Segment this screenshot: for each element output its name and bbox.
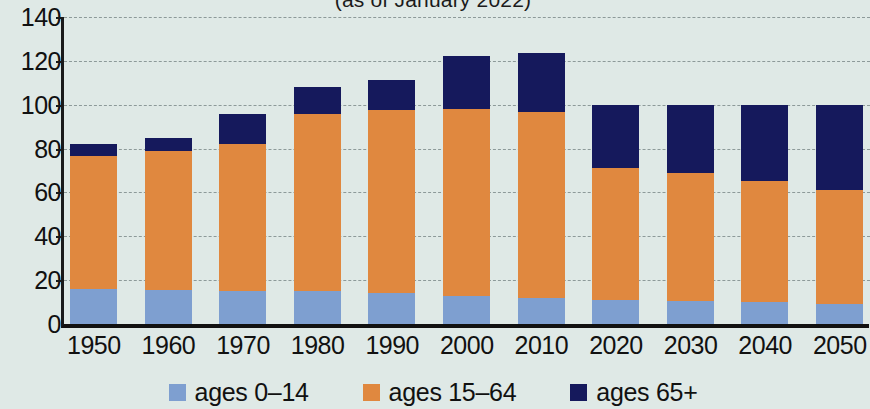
x-axis-tick-label: 2010 — [515, 331, 562, 361]
bar-segment[interactable] — [443, 56, 490, 109]
bar-segment[interactable] — [145, 151, 192, 290]
y-axis-tick-mark — [56, 17, 64, 19]
x-axis-tick-label: 1990 — [365, 331, 412, 361]
bar-segment[interactable] — [443, 109, 490, 295]
x-axis-tick-label: 2000 — [440, 331, 487, 361]
y-axis-tick-label: 80 — [3, 136, 61, 161]
y-axis-tick-mark — [56, 149, 64, 151]
chart-title: (as of January 2022) — [0, 0, 866, 12]
bar-column[interactable] — [368, 17, 415, 324]
bar-segment[interactable] — [70, 144, 117, 156]
bar-column[interactable] — [816, 17, 863, 324]
bar-segment[interactable] — [145, 138, 192, 151]
bar-segment[interactable] — [368, 110, 415, 293]
bar-segment[interactable] — [368, 293, 415, 324]
x-axis-tick-label: 2030 — [664, 331, 711, 361]
x-axis-tick-label: 2020 — [589, 331, 636, 361]
bar-segment[interactable] — [70, 289, 117, 324]
bar-segment[interactable] — [667, 173, 714, 301]
bar-group — [64, 17, 869, 324]
plot-area — [61, 17, 869, 328]
legend-color-swatch — [570, 384, 587, 401]
legend-item[interactable]: ages 0–14 — [169, 378, 309, 407]
y-axis-tick-mark — [56, 280, 64, 282]
y-axis-tick-label: 0 — [3, 312, 61, 337]
legend-label: ages 15–64 — [389, 378, 517, 407]
y-axis-tick-label: 60 — [3, 180, 61, 205]
bar-segment[interactable] — [219, 144, 266, 291]
chart-legend: ages 0–14ages 15–64ages 65+ — [0, 378, 866, 407]
y-axis-tick-label: 120 — [3, 48, 61, 73]
bar-segment[interactable] — [816, 304, 863, 324]
bar-segment[interactable] — [592, 105, 639, 169]
x-axis-tick-labels: 1950196019701980199020002010202020302040… — [61, 331, 866, 361]
bar-segment[interactable] — [219, 114, 266, 145]
legend-label: ages 0–14 — [195, 378, 309, 407]
y-axis-tick-label: 20 — [3, 268, 61, 293]
bar-segment[interactable] — [816, 190, 863, 304]
x-axis-tick-label: 2040 — [738, 331, 785, 361]
bar-segment[interactable] — [219, 291, 266, 324]
bar-segment[interactable] — [592, 300, 639, 324]
bar-segment[interactable] — [443, 296, 490, 325]
y-axis-tick-label: 100 — [3, 92, 61, 117]
bar-segment[interactable] — [741, 105, 788, 182]
bar-column[interactable] — [294, 17, 341, 324]
bar-column[interactable] — [667, 17, 714, 324]
bar-column[interactable] — [70, 17, 117, 324]
x-axis-tick-label: 2050 — [813, 331, 860, 361]
bar-column[interactable] — [592, 17, 639, 324]
bar-column[interactable] — [741, 17, 788, 324]
x-axis-tick-label: 1980 — [291, 331, 338, 361]
bar-segment[interactable] — [741, 181, 788, 302]
x-axis-tick-label: 1960 — [142, 331, 189, 361]
bar-segment[interactable] — [368, 80, 415, 111]
bar-column[interactable] — [145, 17, 192, 324]
x-axis-tick-label: 1950 — [67, 331, 114, 361]
bar-segment[interactable] — [518, 112, 565, 297]
legend-color-swatch — [169, 384, 186, 401]
y-axis-tick-mark — [56, 61, 64, 63]
legend-color-swatch — [363, 384, 380, 401]
legend-label: ages 65+ — [596, 378, 697, 407]
bar-segment[interactable] — [667, 105, 714, 173]
bar-segment[interactable] — [518, 298, 565, 324]
bar-column[interactable] — [443, 17, 490, 324]
legend-item[interactable]: ages 15–64 — [363, 378, 517, 407]
bar-segment[interactable] — [592, 168, 639, 300]
bar-segment[interactable] — [294, 291, 341, 324]
bar-segment[interactable] — [294, 114, 341, 292]
bar-segment[interactable] — [145, 290, 192, 324]
bar-segment[interactable] — [667, 301, 714, 324]
bar-segment[interactable] — [741, 302, 788, 324]
legend-item[interactable]: ages 65+ — [570, 378, 697, 407]
bar-column[interactable] — [518, 17, 565, 324]
y-axis-tick-label: 140 — [3, 5, 61, 30]
y-axis-tick-mark — [56, 236, 64, 238]
y-axis-tick-mark — [56, 192, 64, 194]
y-axis-tick-mark — [56, 105, 64, 107]
bar-segment[interactable] — [518, 53, 565, 112]
bar-segment[interactable] — [70, 156, 117, 289]
bar-segment[interactable] — [816, 105, 863, 191]
y-axis-tick-label: 40 — [3, 224, 61, 249]
bar-column[interactable] — [219, 17, 266, 324]
x-axis-tick-label: 1970 — [216, 331, 263, 361]
bar-segment[interactable] — [294, 87, 341, 113]
